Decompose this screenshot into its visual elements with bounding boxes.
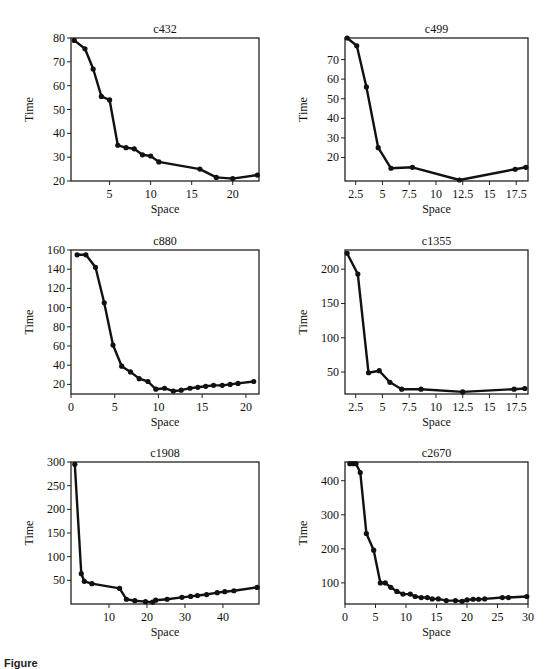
chart-c880: c8800510152020406080100120140160SpaceTim… [71, 250, 259, 394]
plot-area: c2670051015202530100200300400SpaceTime [345, 462, 528, 604]
y-tick-label: 100 [47, 550, 65, 564]
x-tick-label: 30 [522, 610, 534, 624]
data-point [476, 597, 481, 602]
data-point [140, 152, 145, 157]
data-point [387, 380, 392, 385]
data-line [350, 464, 527, 602]
x-tick-label: 25 [492, 610, 504, 624]
y-tick-label: 100 [47, 301, 65, 315]
data-point [91, 66, 96, 71]
data-line [77, 255, 254, 391]
data-point [99, 94, 104, 99]
data-point [235, 381, 240, 386]
data-point [425, 595, 430, 600]
data-point [418, 387, 423, 392]
x-axis-label: Space [422, 202, 451, 216]
y-tick-label: 400 [321, 474, 339, 488]
x-tick-label: 20 [227, 187, 239, 201]
chart-c499: c4992.557.51012.51517.5203040506070Space… [345, 38, 528, 181]
plot-area: c13552.557.51012.51517.550100150200Space… [345, 250, 528, 394]
data-point [72, 38, 77, 43]
y-tick-label: 70 [327, 53, 339, 67]
y-tick-label: 60 [53, 339, 65, 353]
x-tick-label: 40 [217, 610, 229, 624]
data-point [383, 580, 388, 585]
y-tick-label: 80 [53, 320, 65, 334]
caption-prefix: Figure [4, 657, 38, 669]
data-point [156, 159, 161, 164]
data-point [500, 595, 505, 600]
x-tick-label: 12.5 [452, 400, 473, 414]
data-line [347, 253, 525, 392]
plot-area: c8800510152020406080100120140160SpaceTim… [71, 250, 259, 394]
y-tick-label: 30 [53, 150, 65, 164]
data-point [148, 153, 153, 158]
data-point [82, 46, 87, 51]
data-point [400, 592, 405, 597]
x-tick-label: 20 [240, 400, 252, 414]
y-tick-label: 40 [327, 111, 339, 125]
chart-title: c2670 [422, 446, 451, 460]
data-point [214, 175, 219, 180]
data-point [524, 594, 529, 599]
y-axis-label: Time [22, 521, 36, 546]
data-point [408, 592, 413, 597]
y-tick-label: 50 [327, 365, 339, 379]
y-tick-label: 200 [321, 262, 339, 276]
y-tick-label: 20 [53, 174, 65, 188]
data-point [460, 389, 465, 394]
plot-area: c432510152020304050607080SpaceTime [71, 38, 259, 181]
data-point [93, 265, 98, 270]
data-point [187, 386, 192, 391]
x-tick-label: 15 [186, 187, 198, 201]
data-point [251, 379, 256, 384]
x-axis-label: Space [422, 415, 451, 429]
data-point [215, 590, 220, 595]
data-point [119, 364, 124, 369]
x-tick-label: 20 [461, 610, 473, 624]
data-point [377, 368, 382, 373]
data-point [220, 383, 225, 388]
data-point [195, 593, 200, 598]
data-point [419, 595, 424, 600]
data-point [353, 461, 358, 466]
data-point [230, 176, 235, 181]
data-point [388, 166, 393, 171]
plot-frame [71, 250, 259, 394]
y-tick-label: 250 [47, 479, 65, 493]
x-tick-label: 10 [152, 400, 164, 414]
y-tick-label: 70 [53, 55, 65, 69]
x-tick-label: 7.5 [402, 400, 417, 414]
data-point [162, 386, 167, 391]
y-axis-label: Time [22, 97, 36, 122]
x-axis-label: Space [151, 625, 180, 639]
data-point [107, 97, 112, 102]
y-tick-label: 120 [47, 281, 65, 295]
y-tick-label: 160 [47, 243, 65, 257]
data-point [358, 470, 363, 475]
x-tick-label: 17.5 [506, 400, 527, 414]
data-point [124, 597, 129, 602]
data-point [399, 387, 404, 392]
x-tick-label: 15 [196, 400, 208, 414]
x-tick-label: 0 [68, 400, 74, 414]
x-tick-label: 20 [141, 610, 153, 624]
data-point [179, 388, 184, 393]
data-point [457, 177, 462, 182]
data-point [453, 598, 458, 603]
y-tick-label: 60 [53, 79, 65, 93]
chart-title: c1908 [150, 446, 179, 460]
data-point [523, 165, 528, 170]
data-point [188, 594, 193, 599]
x-tick-label: 0 [342, 610, 348, 624]
y-tick-label: 300 [47, 455, 65, 469]
y-tick-label: 60 [327, 72, 339, 86]
data-point [197, 166, 202, 171]
chart-c2670: c2670051015202530100200300400SpaceTime [345, 462, 528, 604]
data-point [171, 389, 176, 394]
x-tick-label: 2.5 [348, 400, 363, 414]
data-point [102, 300, 107, 305]
x-tick-label: 10 [430, 187, 442, 201]
y-tick-label: 80 [53, 31, 65, 45]
y-axis-label: Time [22, 310, 36, 335]
